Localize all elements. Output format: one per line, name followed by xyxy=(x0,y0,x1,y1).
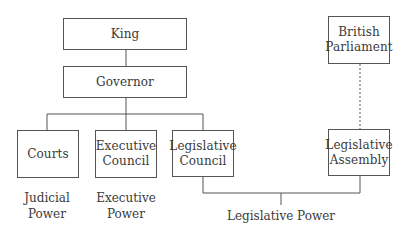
label-legislative-power: Legislative Power xyxy=(221,208,341,224)
node-courts: Courts xyxy=(17,130,79,178)
label-judicial-power: Judicial Power xyxy=(7,190,87,222)
node-governor: Governor xyxy=(63,66,187,98)
node-legislative-assembly: Legislative Assembly xyxy=(328,129,390,176)
node-british-parliament: British Parliament xyxy=(328,16,390,64)
node-executive-council: Executive Council xyxy=(95,130,157,178)
node-legislative-council: Legislative Council xyxy=(172,130,234,177)
label-executive-power: Executive Power xyxy=(86,190,166,222)
node-king: King xyxy=(63,18,187,50)
government-structure-diagram: King Governor Courts Executive Council L… xyxy=(0,0,408,234)
